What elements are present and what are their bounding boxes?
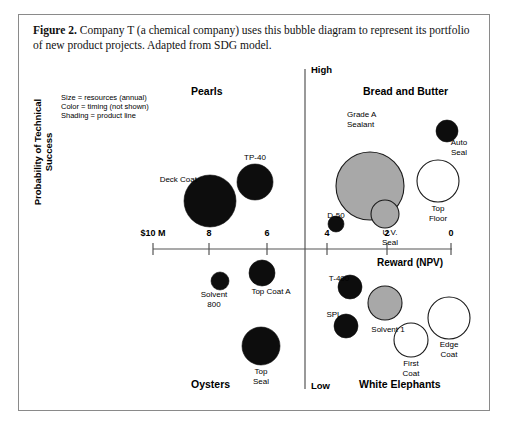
bubble-label: Deck Coat xyxy=(133,175,197,185)
bubble[interactable] xyxy=(237,164,273,200)
bubble-chart: Probability of Technical Success High Lo… xyxy=(19,15,491,412)
figure-frame: Figure 2. Company T (a chemical company)… xyxy=(18,14,490,411)
x-tick-label-2: 6 xyxy=(245,229,289,239)
bubble-label: U.V. Seal xyxy=(358,228,422,247)
bubble-label: Edge Coat xyxy=(417,340,481,359)
quadrant-label-bread-and-butter: Bread and Butter xyxy=(363,87,448,97)
y-axis-high-label: High xyxy=(311,65,332,75)
x-axis-title: Reward (NPV) xyxy=(377,258,443,268)
quadrant-label-pearls: Pearls xyxy=(191,87,223,97)
bubble-label: First Coat xyxy=(379,359,443,378)
x-tick-label-1: 8 xyxy=(187,229,231,239)
x-tick-label-0: $10 M xyxy=(131,229,175,239)
bubble[interactable] xyxy=(428,297,470,339)
bubble-label: Grade A Sealant xyxy=(347,110,417,129)
bubble-label: Top Seal xyxy=(229,367,293,386)
bubble[interactable] xyxy=(371,200,399,228)
quadrant-label-white-elephants: White Elephants xyxy=(359,380,441,390)
x-tick-label-5: 0 xyxy=(429,229,473,239)
bubble-label: Top Coat A xyxy=(239,287,303,297)
bubble[interactable] xyxy=(242,327,280,365)
bubble-label: Solvent 800 xyxy=(182,290,246,309)
bubble-label: Solvent 1 xyxy=(356,325,420,335)
x-tick-label-3: 4 xyxy=(305,229,349,239)
legend-shading-line: Shading = product line xyxy=(61,111,136,121)
bubble-label: TP-40 xyxy=(223,153,287,163)
bubble[interactable] xyxy=(417,160,459,202)
bubble-label: Top Floor xyxy=(406,204,470,223)
bubble-label: SPL xyxy=(302,310,366,320)
bubble-label: Auto Seal xyxy=(427,138,491,157)
bubble[interactable] xyxy=(211,272,229,290)
bubble[interactable] xyxy=(249,260,275,286)
bubble[interactable] xyxy=(368,286,402,320)
bubble-label: T-400 xyxy=(307,274,371,284)
y-axis-low-label: Low xyxy=(311,381,330,391)
y-axis-title: Probability of Technical Success xyxy=(32,82,54,222)
quadrant-label-oysters: Oysters xyxy=(191,380,230,390)
bubble-label: D-50 xyxy=(304,211,368,221)
